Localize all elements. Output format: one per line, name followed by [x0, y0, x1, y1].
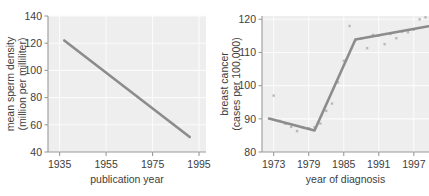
breast-cancer-chart: 809010011012019731979198519911997year of… — [215, 0, 429, 196]
y-axis-title-line1: breast cancer — [218, 52, 230, 116]
x-axis-title: publication year — [90, 173, 164, 185]
sperm-density-chart: 4060801001201401935195519751995publicati… — [0, 0, 215, 196]
x-tick-label: 1975 — [141, 158, 165, 170]
data-point — [331, 102, 333, 104]
data-point — [272, 94, 274, 96]
data-point — [348, 25, 350, 27]
x-tick-label: 1991 — [367, 158, 391, 170]
y-tick-label: 40 — [30, 146, 42, 158]
chart-panel-breast-cancer: 809010011012019731979198519911997year of… — [215, 0, 429, 196]
y-axis-title: mean sperm density(million per millilite… — [4, 36, 28, 131]
data-point — [319, 122, 321, 124]
plot-background — [262, 16, 429, 152]
y-tick-label: 120 — [238, 13, 256, 25]
x-axis: 1935195519751995 — [48, 152, 211, 170]
y-axis-title-line1: mean sperm density — [4, 36, 16, 131]
data-point — [325, 110, 327, 112]
x-tick-label: 1985 — [332, 158, 356, 170]
data-point — [383, 43, 385, 45]
y-tick-label: 80 — [244, 146, 256, 158]
y-tick-label: 90 — [244, 113, 256, 125]
data-point — [418, 18, 420, 20]
data-point — [395, 37, 397, 39]
x-tick-label: 1973 — [262, 158, 286, 170]
data-point — [290, 126, 292, 128]
chart-panel-sperm-density: 4060801001201401935195519751995publicati… — [0, 0, 215, 196]
data-point — [424, 16, 426, 18]
x-tick-label: 1935 — [48, 158, 72, 170]
data-point — [366, 47, 368, 49]
x-axis-title: year of diagnosis — [306, 173, 385, 185]
y-axis-title-line2: (million per milliliter) — [16, 38, 28, 131]
x-tick-label: 1995 — [187, 158, 211, 170]
x-tick-label: 1979 — [297, 158, 321, 170]
x-tick-label: 1997 — [402, 158, 426, 170]
y-axis-title: breast cancer(cases per 100,000) — [218, 37, 242, 130]
x-axis: 19731979198519911997 — [262, 152, 426, 170]
y-tick-label: 140 — [24, 10, 42, 22]
y-tick-label: 80 — [30, 91, 42, 103]
figure-two-panel-charts: 4060801001201401935195519751995publicati… — [0, 0, 429, 196]
x-tick-label: 1955 — [94, 158, 118, 170]
y-tick-label: 60 — [30, 119, 42, 131]
data-point — [296, 130, 298, 132]
y-axis-title-line2: (cases per 100,000) — [230, 37, 242, 130]
